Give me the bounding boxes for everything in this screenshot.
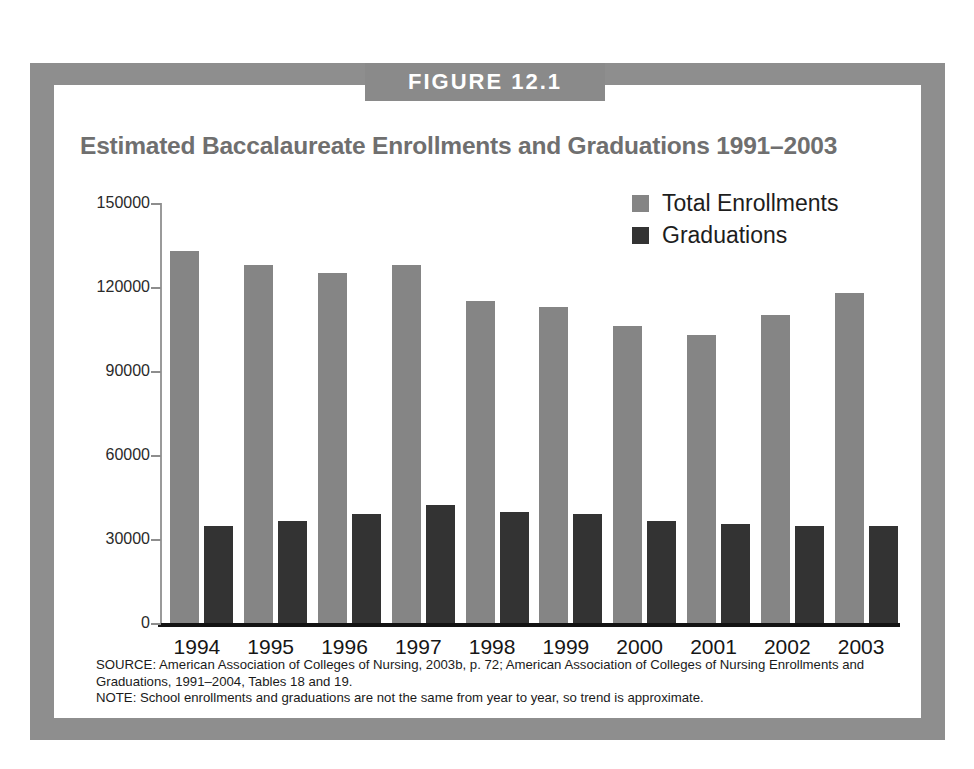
chart-title: Estimated Baccalaureate Enrollments and … bbox=[80, 132, 837, 160]
y-tick-label: 60000 bbox=[106, 446, 151, 464]
legend-swatch-icon-graduations bbox=[632, 227, 649, 244]
bar-group bbox=[613, 203, 676, 623]
x-tick-label: 1994 bbox=[160, 635, 234, 659]
bar-total-enrollments bbox=[244, 265, 273, 623]
y-tick-label: 0 bbox=[141, 614, 150, 632]
y-tick-label: 150000 bbox=[97, 194, 150, 212]
x-axis-line bbox=[158, 623, 900, 627]
bar-graduations bbox=[647, 521, 676, 623]
x-tick-label: 1996 bbox=[308, 635, 382, 659]
legend-swatch-icon-total-enrollments bbox=[632, 195, 649, 212]
bar-group bbox=[466, 203, 529, 623]
bar-graduations bbox=[204, 526, 233, 623]
x-tick-label: 2003 bbox=[824, 635, 898, 659]
x-tick-label: 1997 bbox=[381, 635, 455, 659]
bar-group bbox=[539, 203, 602, 623]
y-tick-mark bbox=[151, 623, 161, 625]
legend-label-total-enrollments: Total Enrollments bbox=[662, 190, 838, 217]
y-tick-label: 90000 bbox=[106, 362, 151, 380]
bar-total-enrollments bbox=[466, 301, 495, 623]
bar-total-enrollments bbox=[318, 273, 347, 623]
bar-group bbox=[761, 203, 824, 623]
bar-total-enrollments bbox=[613, 326, 642, 623]
bar-graduations bbox=[352, 514, 381, 623]
source-note: SOURCE: American Association of Colleges… bbox=[96, 657, 896, 690]
bar-group bbox=[244, 203, 307, 623]
bar-total-enrollments bbox=[835, 293, 864, 623]
legend-item-total-enrollments: Total Enrollments bbox=[632, 190, 838, 216]
figure-panel: Estimated Baccalaureate Enrollments and … bbox=[54, 85, 921, 718]
x-tick-label: 2000 bbox=[603, 635, 677, 659]
chart-legend: Total Enrollments Graduations bbox=[632, 190, 838, 254]
figure-number-banner: FIGURE 12.1 bbox=[365, 63, 605, 101]
chart-notes: SOURCE: American Association of Colleges… bbox=[96, 657, 896, 707]
bar-total-enrollments bbox=[687, 335, 716, 623]
bar-total-enrollments bbox=[761, 315, 790, 623]
bar-group bbox=[170, 203, 233, 623]
plot-area: 0300006000090000120000150000 19941995199… bbox=[160, 203, 898, 623]
bar-graduations bbox=[573, 514, 602, 623]
bar-group bbox=[835, 203, 898, 623]
x-tick-label: 1995 bbox=[234, 635, 308, 659]
bar-graduations bbox=[278, 521, 307, 623]
bar-total-enrollments bbox=[539, 307, 568, 623]
x-tick-label: 2002 bbox=[750, 635, 824, 659]
y-tick-label: 120000 bbox=[97, 278, 150, 296]
figure-frame: FIGURE 12.1 Estimated Baccalaureate Enro… bbox=[30, 63, 945, 740]
bar-graduations bbox=[721, 524, 750, 623]
figure-number-label: FIGURE 12.1 bbox=[408, 69, 562, 95]
x-tick-label: 1999 bbox=[529, 635, 603, 659]
legend-label-graduations: Graduations bbox=[662, 222, 787, 249]
bar-group bbox=[318, 203, 381, 623]
general-note: NOTE: School enrollments and graduations… bbox=[96, 690, 896, 707]
y-tick-mark bbox=[151, 203, 161, 205]
bar-total-enrollments bbox=[392, 265, 421, 623]
x-tick-label: 1998 bbox=[455, 635, 529, 659]
bar-graduations bbox=[795, 526, 824, 623]
legend-item-graduations: Graduations bbox=[632, 222, 838, 248]
y-tick-mark bbox=[151, 371, 161, 373]
bar-group bbox=[392, 203, 455, 623]
bar-graduations bbox=[426, 505, 455, 623]
bar-group bbox=[687, 203, 750, 623]
y-tick-mark bbox=[151, 455, 161, 457]
y-tick-mark bbox=[151, 287, 161, 289]
y-axis-line bbox=[160, 203, 162, 623]
y-tick-label: 30000 bbox=[106, 530, 151, 548]
bar-graduations bbox=[500, 512, 529, 623]
bar-graduations bbox=[869, 526, 898, 623]
y-tick-mark bbox=[151, 539, 161, 541]
bar-total-enrollments bbox=[170, 251, 199, 623]
x-tick-label: 2001 bbox=[677, 635, 751, 659]
